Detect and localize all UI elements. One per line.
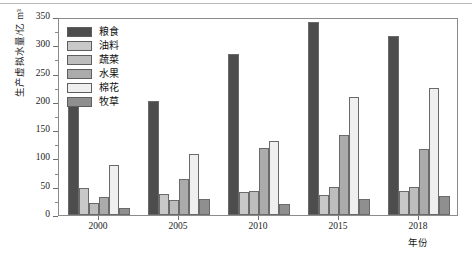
bar-2018-棉花 — [429, 88, 439, 215]
bar-2000-棉花 — [109, 165, 119, 215]
legend-item-牧草: 牧草 — [67, 95, 119, 108]
plot-area: 粮食油料蔬菜水果棉花牧草 — [58, 18, 458, 216]
x-tick-label-2015: 2015 — [308, 221, 368, 231]
x-tick-mark-2000 — [98, 216, 99, 220]
bar-2005-蔬菜 — [169, 200, 179, 215]
bar-2010-油料 — [239, 192, 249, 215]
legend-label: 粮食 — [99, 27, 119, 37]
bar-2000-牧草 — [119, 208, 129, 215]
x-tick-mark-2005 — [178, 216, 179, 220]
y-tick-label: 300 — [36, 39, 50, 49]
chart-legend: 粮食油料蔬菜水果棉花牧草 — [67, 25, 119, 108]
legend-swatch-水果 — [67, 69, 92, 79]
bar-2010-粮食 — [228, 54, 238, 215]
legend-item-棉花: 棉花 — [67, 81, 119, 94]
bar-2015-粮食 — [308, 22, 318, 215]
bar-2000-水果 — [99, 197, 109, 215]
bar-2010-牧草 — [279, 204, 289, 215]
y-tick-label: 150 — [36, 124, 50, 134]
bar-2018-牧草 — [439, 196, 449, 215]
bar-2005-粮食 — [148, 101, 158, 215]
legend-item-粮食: 粮食 — [67, 25, 119, 38]
x-tick-mark-2018 — [418, 216, 419, 220]
bar-2005-牧草 — [199, 199, 209, 215]
bar-2005-水果 — [179, 179, 189, 215]
x-tick-label-2010: 2010 — [228, 221, 288, 231]
y-tick-label: 0 — [45, 209, 50, 219]
bar-2005-油料 — [159, 194, 169, 215]
legend-label: 水果 — [99, 69, 119, 79]
bar-2000-粮食 — [68, 104, 78, 215]
x-tick-label-2018: 2018 — [388, 221, 448, 231]
legend-item-蔬菜: 蔬菜 — [67, 53, 119, 66]
bar-2010-蔬菜 — [249, 191, 259, 215]
bar-2015-油料 — [319, 195, 329, 215]
legend-swatch-粮食 — [67, 27, 92, 37]
bar-2018-粮食 — [388, 36, 398, 215]
x-tick-mark-2015 — [338, 216, 339, 220]
bar-2000-蔬菜 — [89, 203, 99, 215]
bar-2005-棉花 — [189, 154, 199, 215]
y-tick-label: 50 — [41, 181, 51, 191]
legend-swatch-棉花 — [67, 83, 92, 93]
y-tick-label: 100 — [36, 152, 50, 162]
legend-swatch-油料 — [67, 41, 92, 51]
y-tick-label: 250 — [36, 68, 50, 78]
bar-2018-水果 — [419, 149, 429, 215]
legend-item-油料: 油料 — [67, 39, 119, 52]
x-tick-mark-2010 — [258, 216, 259, 220]
bar-2015-牧草 — [359, 199, 369, 215]
legend-label: 蔬菜 — [99, 55, 119, 65]
y-tick-label: 350 — [36, 11, 50, 21]
chart-figure: 生产虚拟水量/亿 m³ 050100150200250300350 粮食油料蔬菜… — [0, 0, 472, 259]
legend-label: 牧草 — [99, 97, 119, 107]
y-tick-mark — [53, 216, 58, 217]
legend-swatch-牧草 — [67, 97, 92, 107]
x-tick-label-2005: 2005 — [148, 221, 208, 231]
x-axis-title: 年份 — [408, 235, 428, 249]
legend-swatch-蔬菜 — [67, 55, 92, 65]
legend-item-水果: 水果 — [67, 67, 119, 80]
bar-2000-油料 — [79, 188, 89, 215]
y-tick-label: 200 — [36, 96, 50, 106]
bar-2010-水果 — [259, 148, 269, 215]
bar-2015-水果 — [339, 135, 349, 215]
y-axis-title: 生产虚拟水量/亿 m³ — [12, 0, 26, 118]
bar-2015-蔬菜 — [329, 187, 339, 215]
legend-label: 棉花 — [99, 83, 119, 93]
x-tick-label-2000: 2000 — [68, 221, 128, 231]
legend-label: 油料 — [99, 41, 119, 51]
bar-2015-棉花 — [349, 97, 359, 215]
bar-2010-棉花 — [269, 141, 279, 215]
bar-2018-油料 — [399, 191, 409, 215]
bar-2018-蔬菜 — [409, 187, 419, 215]
